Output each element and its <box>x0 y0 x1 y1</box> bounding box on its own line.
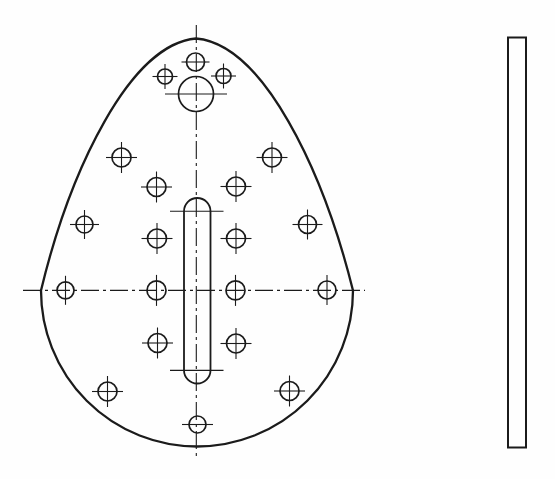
hole <box>141 172 172 203</box>
hole <box>70 210 99 239</box>
hole <box>221 171 252 202</box>
side-view-plate <box>508 38 526 448</box>
hole <box>182 53 210 71</box>
hole <box>106 142 137 173</box>
hole <box>293 210 323 240</box>
hole <box>221 328 252 359</box>
hole <box>274 376 305 407</box>
plate-outline <box>41 39 353 447</box>
hole <box>257 142 288 173</box>
front-view <box>23 25 365 459</box>
hole <box>211 64 236 89</box>
hole <box>221 223 252 254</box>
hole <box>153 64 178 89</box>
hole <box>92 376 123 407</box>
engineering-drawing-page <box>0 0 555 479</box>
hole <box>142 328 173 359</box>
side-view <box>508 38 526 448</box>
pear-plate-technical-drawing <box>0 0 555 479</box>
hole <box>142 223 173 254</box>
hole <box>182 416 213 433</box>
